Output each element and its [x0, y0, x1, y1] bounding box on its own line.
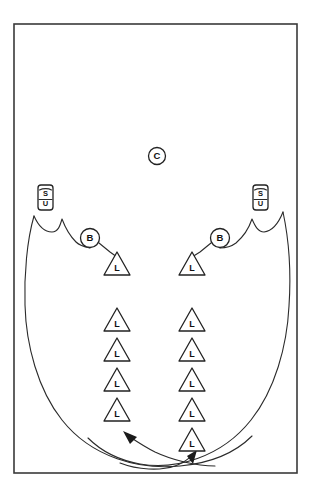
- supply-unit-left-label-bottom: U: [43, 199, 48, 208]
- triangle-left-0[interactable]: L: [104, 252, 130, 275]
- diagram-canvas: C S U S U B B L: [0, 0, 313, 493]
- diagram-root: C S U S U B B L: [0, 0, 313, 493]
- triangle-left-1-label: L: [114, 319, 120, 329]
- triangle-left-4-label: L: [114, 409, 120, 419]
- right-boundary-curve: [88, 212, 290, 465]
- triangle-left-1[interactable]: L: [104, 308, 130, 331]
- triangle-right-0-label: L: [189, 263, 195, 273]
- triangle-right-4-label: L: [189, 409, 195, 419]
- supply-unit-right-label-bottom: U: [258, 199, 263, 208]
- triangle-left-3-label: L: [114, 379, 120, 389]
- triangle-right-1[interactable]: L: [179, 308, 205, 331]
- center-marker-c[interactable]: C: [149, 148, 166, 165]
- left-boundary-curve: [25, 216, 252, 467]
- triangle-right-2-label: L: [189, 349, 195, 359]
- left-sweep-arrow-head: [123, 431, 137, 444]
- triangle-right-5-label: L: [189, 439, 195, 449]
- b-node-right-label: B: [217, 232, 224, 243]
- triangle-left-3[interactable]: L: [104, 368, 130, 391]
- left-b-to-triangle-path: [99, 243, 117, 257]
- triangle-right-2[interactable]: L: [179, 338, 205, 361]
- b-node-right[interactable]: B: [211, 229, 230, 248]
- diagram-frame: [14, 24, 297, 473]
- triangle-right-1-label: L: [189, 319, 195, 329]
- triangle-right-3-label: L: [189, 379, 195, 389]
- triangle-left-0-label: L: [114, 263, 120, 273]
- triangle-left-4[interactable]: L: [104, 398, 130, 421]
- supply-unit-left-label-top: S: [43, 189, 48, 198]
- right-b-to-triangle-path: [192, 243, 211, 257]
- supply-unit-right-label-top: S: [258, 189, 263, 198]
- right-connector-path: [220, 212, 283, 248]
- center-circle-label: C: [154, 150, 161, 161]
- supply-unit-right[interactable]: S U: [253, 185, 268, 210]
- supply-unit-left[interactable]: S U: [38, 185, 53, 210]
- triangle-left-2[interactable]: L: [104, 338, 130, 361]
- right-sweep-arrow-head: [187, 450, 197, 464]
- b-node-left-label: B: [87, 232, 94, 243]
- triangle-right-5[interactable]: L: [179, 428, 205, 451]
- triangle-right-3[interactable]: L: [179, 368, 205, 391]
- triangle-right-4[interactable]: L: [179, 398, 205, 421]
- b-node-left[interactable]: B: [81, 229, 100, 248]
- triangle-right-0[interactable]: L: [179, 252, 205, 275]
- triangle-left-2-label: L: [114, 349, 120, 359]
